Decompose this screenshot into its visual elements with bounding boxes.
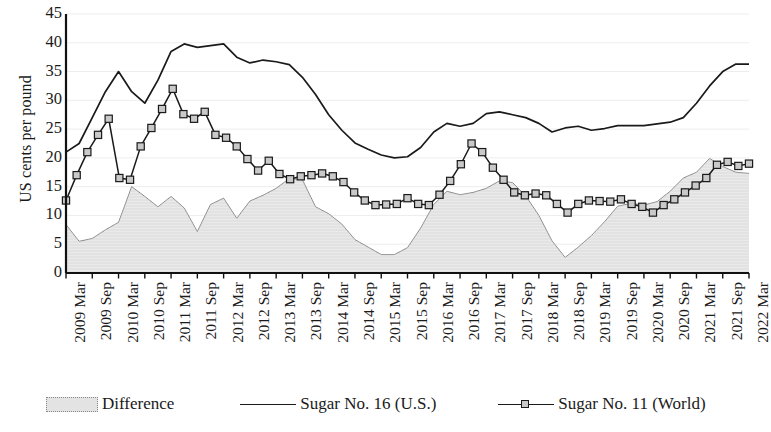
- legend-swatch-line-marker-icon: [498, 404, 554, 405]
- legend-label-sugar-no11-world: Sugar No. 11 (World): [558, 394, 705, 414]
- x-axis-tick-label: 2009 Sep: [98, 282, 114, 372]
- x-axis-tick-label: 2019 Mar: [597, 282, 613, 372]
- x-axis-tick-label: 2010 Sep: [151, 282, 167, 372]
- legend-swatch-area-icon: [46, 397, 98, 412]
- x-axis-tick-label: 2017 Sep: [519, 282, 535, 372]
- x-axis-tick-label: 2011 Mar: [177, 282, 193, 372]
- x-axis-tick-label: 2013 Sep: [308, 282, 324, 372]
- x-axis-tick-label: 2021 Mar: [702, 282, 718, 372]
- legend-item-sugar-no16-us[interactable]: Sugar No. 16 (U.S.): [240, 394, 436, 414]
- x-axis-tick-label: 2015 Sep: [414, 282, 430, 372]
- legend-item-sugar-no11-world[interactable]: Sugar No. 11 (World): [498, 394, 705, 414]
- x-axis-tick-label: 2022 Mar: [755, 282, 771, 372]
- legend-swatch-line-icon: [240, 404, 296, 405]
- x-axis-tick-label: 2020 Sep: [676, 282, 692, 372]
- x-axis-tick-label: 2017 Mar: [492, 282, 508, 372]
- chart-legend: Difference Sugar No. 16 (U.S.) Sugar No.…: [0, 384, 763, 424]
- x-axis-tick-label: 2021 Sep: [729, 282, 745, 372]
- x-axis-tick-label: 2014 Sep: [361, 282, 377, 372]
- legend-label-sugar-no16-us: Sugar No. 16 (U.S.): [300, 394, 436, 414]
- x-axis-tick-label: 2012 Mar: [230, 282, 246, 372]
- x-axis-tick-label: 2016 Sep: [466, 282, 482, 372]
- x-axis-tick-label: 2014 Mar: [335, 282, 351, 372]
- x-axis-tick-label: 2015 Mar: [387, 282, 403, 372]
- x-axis-tick-label: 2020 Mar: [650, 282, 666, 372]
- x-axis-tick-label: 2010 Mar: [125, 282, 141, 372]
- x-axis-tick-label: 2011 Sep: [203, 282, 219, 372]
- x-axis-tick-label: 2018 Mar: [545, 282, 561, 372]
- legend-item-difference[interactable]: Difference: [46, 394, 174, 414]
- x-axis-tick-label: 2019 Sep: [624, 282, 640, 372]
- x-axis-tick-label: 2018 Sep: [571, 282, 587, 372]
- x-axis-tick-label: 2013 Mar: [282, 282, 298, 372]
- legend-label-difference: Difference: [102, 394, 174, 414]
- x-axis-tick-label: 2012 Sep: [256, 282, 272, 372]
- x-axis-tick-label: 2016 Mar: [440, 282, 456, 372]
- x-axis-tick-label: 2009 Mar: [72, 282, 88, 372]
